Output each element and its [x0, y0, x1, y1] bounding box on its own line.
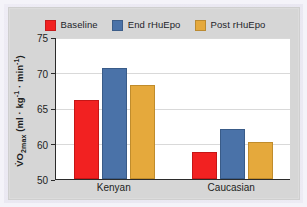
- y-tick-label-50: 50: [37, 175, 48, 186]
- y-tick-mark-65: [51, 109, 55, 110]
- y-tick-label-65: 65: [37, 104, 48, 115]
- y-axis-title-exp1: -1: [13, 91, 20, 97]
- legend-label-baseline: Baseline: [61, 20, 98, 30]
- gridline-75: [56, 38, 290, 39]
- plot-outer: 5060657075 KenyanCaucasian: [55, 38, 290, 180]
- y-axis-title-prefix: V̇: [14, 160, 25, 166]
- legend-swatch-end-rhuepo: [112, 20, 123, 31]
- figure-container: Baseline End rHuEpo Post rHuEpo V̇O2max …: [0, 0, 307, 207]
- y-tick-label-60: 60: [37, 139, 48, 150]
- legend-item-post-rhuepo: Post rHuEpo: [195, 20, 266, 31]
- legend-swatch-baseline: [45, 20, 56, 31]
- x-category-label-kenyan: Kenyan: [97, 182, 131, 193]
- x-category-label-caucasian: Caucasian: [208, 182, 255, 193]
- bar-caucasian-post-rhuepo: [248, 142, 273, 179]
- y-tick-mark-70: [51, 73, 55, 74]
- y-axis-title-exp2: -1: [13, 58, 20, 64]
- y-axis-title-units: (ml · kg: [14, 97, 25, 134]
- bar-caucasian-end-rhuepo: [220, 129, 245, 179]
- legend-label-post-rhuepo: Post rHuEpo: [211, 20, 266, 30]
- chart-legend: Baseline End rHuEpo Post rHuEpo: [9, 15, 301, 35]
- bar-kenyan-baseline: [74, 100, 99, 179]
- y-axis-title-mid: · min: [14, 65, 25, 91]
- y-tick-label-70: 70: [37, 68, 48, 79]
- y-axis-title: V̇O2max (ml · kg-1 · min-1): [13, 55, 27, 167]
- legend-item-end-rhuepo: End rHuEpo: [112, 20, 181, 31]
- bar-caucasian-baseline: [192, 152, 217, 179]
- legend-swatch-post-rhuepo: [195, 20, 206, 31]
- legend-item-baseline: Baseline: [45, 20, 98, 31]
- y-axis-title-main: O: [14, 153, 25, 161]
- y-tick-mark-50: [51, 180, 55, 181]
- bar-kenyan-post-rhuepo: [130, 85, 155, 179]
- legend-label-end-rhuepo: End rHuEpo: [128, 20, 181, 30]
- bar-kenyan-end-rhuepo: [102, 68, 127, 179]
- plot-area: [55, 38, 290, 180]
- y-axis-title-suffix: ): [14, 55, 25, 58]
- y-axis-title-sub: 2max: [20, 135, 27, 153]
- y-tick-label-75: 75: [37, 33, 48, 44]
- y-tick-mark-60: [51, 144, 55, 145]
- gridline-70: [56, 73, 290, 74]
- y-tick-mark-75: [51, 38, 55, 39]
- y-axis-title-wrapper: V̇O2max (ml · kg-1 · min-1): [11, 36, 29, 186]
- chart-panel: Baseline End rHuEpo Post rHuEpo V̇O2max …: [8, 7, 300, 200]
